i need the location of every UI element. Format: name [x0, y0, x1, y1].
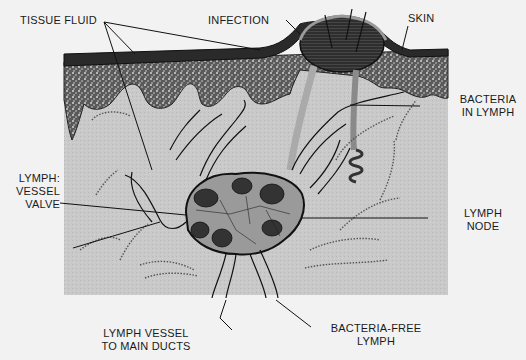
- label-skin: SKIN: [408, 12, 434, 25]
- lymph-diagram: TISSUE FLUID INFECTION SKIN BACTERIA IN …: [0, 0, 526, 360]
- diagram-illustration: [0, 0, 526, 360]
- label-lymph-node: LYMPH NODE: [458, 207, 508, 233]
- label-bacteria-in-lymph: BACTERIA IN LYMPH: [457, 93, 519, 119]
- label-infection: INFECTION: [208, 14, 269, 27]
- label-bacteria-free-lymph: BACTERIA-FREE LYMPH: [324, 322, 428, 348]
- label-lymph-vessel-to-main-ducts: LYMPH VESSEL TO MAIN DUCTS: [94, 327, 198, 353]
- label-tissue-fluid: TISSUE FLUID: [20, 14, 97, 27]
- label-lymph-vessel-valve: LYMPH: VESSEL VALVE: [6, 172, 60, 211]
